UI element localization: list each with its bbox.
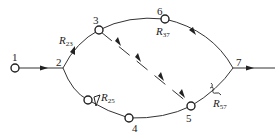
- edge-2-4: [63, 68, 129, 118]
- edge-2-3: [63, 30, 99, 68]
- arrow-7-out-icon: [246, 66, 254, 71]
- arrow-3-5-b-icon: [135, 53, 141, 62]
- node-4: [125, 114, 133, 122]
- edges: [15, 18, 275, 118]
- label-node-2: 2: [56, 56, 62, 68]
- edge-6-7: [165, 19, 233, 68]
- resistance-r57-tick-icon: [211, 83, 212, 87]
- node-1: [11, 64, 19, 72]
- label-node-1: 1: [12, 51, 18, 63]
- label-node-3: 3: [93, 14, 99, 26]
- label-r23: R23: [58, 34, 73, 48]
- label-r25: R25: [100, 91, 115, 105]
- arrow-6-7-icon: [189, 27, 196, 35]
- node-r25-valve: [84, 96, 92, 104]
- label-r57: R57: [212, 97, 227, 111]
- label-node-4: 4: [132, 122, 138, 134]
- resistance-labels: R23 R37 R25 R57: [58, 25, 227, 111]
- node-3: [95, 26, 103, 34]
- arrow-3-5-a-icon: [115, 37, 121, 46]
- edge-4-5: [129, 106, 191, 118]
- node-5: [187, 102, 195, 110]
- label-node-6: 6: [157, 5, 163, 17]
- label-node-7: 7: [236, 56, 242, 68]
- arrow-1-2-icon: [40, 66, 48, 71]
- label-node-5: 5: [186, 112, 192, 124]
- flow-network-diagram: 1 2 3 6 7 4 5 R23 R37 R25 R57: [0, 0, 280, 139]
- label-r37: R37: [155, 25, 170, 39]
- edge-3-5-dashed: [101, 32, 187, 102]
